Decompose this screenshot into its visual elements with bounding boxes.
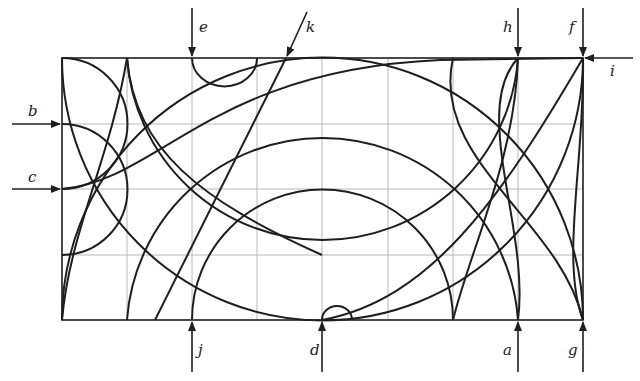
label-b: b — [28, 104, 38, 119]
label-g: g — [568, 343, 578, 358]
arc-e-semicircle — [192, 58, 257, 86]
label-j: j — [198, 343, 203, 358]
label-e: e — [199, 20, 208, 35]
arrow-k — [287, 12, 307, 56]
label-k: k — [306, 20, 315, 35]
label-a: a — [503, 343, 512, 358]
label-h: h — [503, 20, 513, 35]
label-i: i — [610, 64, 615, 79]
arc-maze-diagram — [0, 0, 640, 381]
label-f: f — [569, 20, 575, 35]
label-d: d — [310, 343, 320, 358]
label-c: c — [28, 170, 36, 185]
arc-col1-curve — [127, 58, 322, 255]
